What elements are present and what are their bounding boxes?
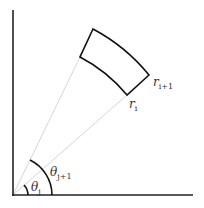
label-theta-lower: θj	[31, 180, 41, 196]
polar-cell	[80, 29, 149, 95]
label-r-inner: ri	[129, 97, 138, 113]
label-r-outer: ri+1	[153, 75, 173, 91]
polar-cell-diagram: ri+1 ri θj+1 θj	[0, 0, 204, 208]
label-theta-upper: θj+1	[50, 165, 72, 181]
arc-theta-lower	[24, 185, 28, 195]
